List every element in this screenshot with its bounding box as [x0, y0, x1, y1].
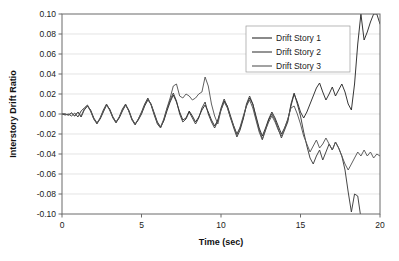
y-tick-label: 0.08 — [39, 29, 56, 39]
chart-container: 0.100.080.060.040.020.00-0.02-0.04-0.06-… — [0, 0, 399, 261]
legend-label-2: Drift Story 2 — [276, 47, 321, 57]
x-tick-label: 10 — [216, 220, 226, 230]
x-tick-label: 20 — [375, 220, 385, 230]
interstory-drift-ratio-time-history-chart: 0.100.080.060.040.020.00-0.02-0.04-0.06-… — [0, 0, 399, 261]
y-tick-label: 0.00 — [39, 109, 56, 119]
legend-label-3: Drift Story 3 — [276, 61, 321, 71]
x-axis-title: Time (sec) — [199, 237, 243, 247]
x-tick-label: 5 — [139, 220, 144, 230]
y-axis-title: Interstory Drift Ratio — [8, 70, 18, 158]
y-tick-label: 0.06 — [39, 49, 56, 59]
y-tick-label: -0.02 — [37, 129, 57, 139]
y-tick-label: -0.06 — [37, 169, 57, 179]
y-tick-label: 0.02 — [39, 89, 56, 99]
y-tick-label: -0.10 — [37, 209, 57, 219]
x-tick-label: 0 — [60, 220, 65, 230]
y-tick-label: 0.04 — [39, 69, 56, 79]
y-tick-label: -0.04 — [37, 149, 57, 159]
chart-legend: Drift Story 1Drift Story 2Drift Story 3 — [246, 26, 350, 72]
legend-label-1: Drift Story 1 — [276, 33, 321, 43]
x-tick-label: 15 — [296, 220, 306, 230]
y-tick-label: 0.10 — [39, 9, 56, 19]
y-tick-label: -0.08 — [37, 189, 57, 199]
